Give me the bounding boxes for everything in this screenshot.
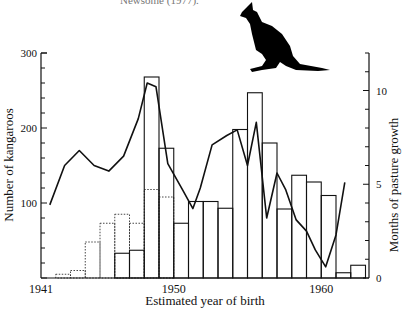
x-tick-label: 1960 <box>309 282 333 296</box>
solid-bar <box>130 250 145 278</box>
solid-bar <box>218 208 233 278</box>
y-tick-label: 200 <box>21 122 38 134</box>
solid-bar <box>159 148 174 278</box>
solid-bar <box>203 202 218 279</box>
solid-bar <box>115 253 130 278</box>
solid-bar <box>262 143 277 278</box>
solid-bar <box>321 196 336 279</box>
x-tick-label: 1941 <box>29 282 53 296</box>
solid-bar <box>144 77 159 278</box>
chart: 1002003000510194119501960 Estimated year… <box>0 0 407 311</box>
solid-bar <box>277 209 292 278</box>
y-tick-label: 100 <box>21 197 38 209</box>
solid-bar <box>189 202 204 279</box>
kangaroo-icon <box>240 2 330 72</box>
solid-bar <box>336 273 351 278</box>
solid-bar <box>292 175 307 278</box>
y-axis-label: Number of kangaroos <box>1 108 16 221</box>
solid-bar <box>351 265 366 278</box>
y2-axis-label: Months of pasture growth <box>386 117 401 252</box>
y2-tick-label: 5 <box>376 178 382 190</box>
solid-bar <box>248 93 263 278</box>
x-axis-label: Estimated year of birth <box>145 293 265 308</box>
dotted-bar <box>71 271 86 279</box>
dotted-bar <box>100 223 115 278</box>
solid-bar <box>307 182 322 278</box>
y2-tick-label: 10 <box>376 85 388 97</box>
y-tick-label: 300 <box>21 47 38 59</box>
dotted-bar <box>85 242 100 278</box>
solid-bar <box>233 130 248 279</box>
solid-bar <box>174 223 189 278</box>
y2-tick-label: 0 <box>376 272 382 284</box>
